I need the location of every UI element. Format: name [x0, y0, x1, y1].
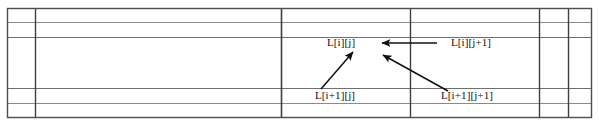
diagram-canvas: L[i][j] L[i][j+1] L[i+1][j] L[i+1][j+1] [0, 0, 599, 126]
label-l-i-j: L[i][j] [327, 36, 355, 48]
label-l-i-j-plus-1: L[i][j+1] [451, 36, 491, 48]
arrow-below-to-up-right-icon [321, 52, 353, 89]
label-l-i-plus-1-j: L[i+1][j] [315, 89, 355, 101]
arrow-diagonal-to-up-left-icon [383, 55, 448, 91]
label-l-i-plus-1-j-plus-1: L[i+1][j+1] [441, 89, 493, 101]
arrow-layer [0, 0, 599, 126]
